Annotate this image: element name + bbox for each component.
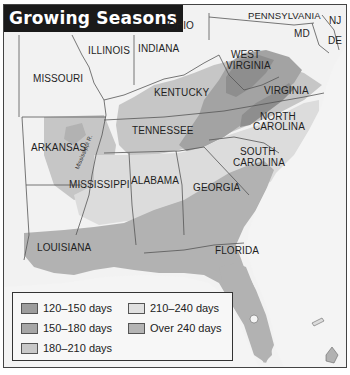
legend-item-120-150: 120–150 days	[21, 302, 112, 314]
state-label-de: DE	[328, 35, 342, 46]
legend-swatch-210-240	[128, 303, 145, 314]
legend-label-150-180: 150–180 days	[43, 322, 112, 334]
state-label-indiana: INDIANA	[138, 43, 179, 54]
state-label-pennsylvania: PENNSYLVANIA	[248, 10, 321, 21]
map-frame: Growing Seasons OHIO PENNSYLVANIA NJ MD …	[3, 4, 347, 368]
state-label-florida: FLORIDA	[215, 245, 259, 256]
legend-label-120-150: 120–150 days	[43, 302, 112, 314]
state-label-west-virginia: VIRGINIA	[226, 60, 271, 71]
legend-item-210-240: 210–240 days	[128, 302, 219, 314]
map-legend: 120–150 days 150–180 days 180–210 days 2…	[12, 292, 233, 361]
state-label-kentucky: KENTUCKY	[154, 87, 209, 98]
state-label-south: SOUTH	[240, 146, 276, 157]
legend-swatch-120-150	[21, 303, 38, 314]
legend-swatch-over-240	[128, 323, 145, 334]
state-label-georgia: GEORGIA	[193, 182, 240, 193]
state-label-south-carolina: CAROLINA	[233, 157, 285, 168]
legend-item-150-180: 150–180 days	[21, 322, 112, 334]
state-label-west: WEST	[231, 49, 260, 60]
legend-label-180-210: 180–210 days	[43, 342, 112, 354]
state-label-nj: NJ	[329, 15, 341, 26]
state-label-missouri: MISSOURI	[33, 73, 83, 84]
legend-item-over-240: Over 240 days	[128, 322, 222, 334]
legend-item-180-210: 180–210 days	[21, 342, 112, 354]
state-label-arkansas: ARKANSAS	[31, 142, 86, 153]
state-label-virginia: VIRGINIA	[264, 85, 309, 96]
map-title: Growing Seasons	[4, 5, 183, 32]
state-label-mississippi: MISSISSIPPI	[69, 179, 130, 190]
state-label-louisiana: LOUISIANA	[37, 242, 91, 253]
legend-swatch-150-180	[21, 323, 38, 334]
state-label-md: MD	[294, 28, 310, 39]
state-label-alabama: ALABAMA	[131, 175, 179, 186]
legend-label-over-240: Over 240 days	[150, 322, 222, 334]
legend-label-210-240: 210–240 days	[150, 302, 219, 314]
state-label-north-carolina: CAROLINA	[253, 121, 305, 132]
lake-okeechobee	[250, 315, 258, 323]
state-label-tennessee: TENNESSEE	[132, 125, 193, 136]
state-label-illinois: ILLINOIS	[88, 45, 130, 56]
state-label-ohio: OHIO	[168, 20, 194, 31]
legend-swatch-180-210	[21, 343, 38, 354]
